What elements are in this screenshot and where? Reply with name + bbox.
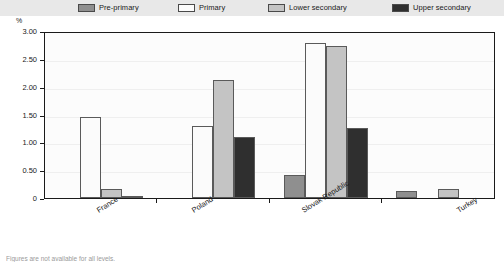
bar-poland-lower-secondary[interactable] xyxy=(213,80,234,198)
gridline xyxy=(45,89,494,90)
y-axis-tick-label: 1.00 xyxy=(22,138,37,147)
legend-swatch-icon xyxy=(268,4,285,12)
bar-poland-primary[interactable] xyxy=(192,126,213,198)
x-axis-group-tick xyxy=(381,199,382,203)
gridline xyxy=(45,144,494,145)
y-axis-tick-label: 3.00 xyxy=(22,27,37,36)
legend-label: Lower secondary xyxy=(289,4,347,12)
y-axis-tick-label: 0.50 xyxy=(22,166,37,175)
bar-france-primary[interactable] xyxy=(80,117,101,198)
legend-swatch-icon xyxy=(392,4,409,12)
y-axis: 00.501.001.502.002.503.00 xyxy=(0,32,44,199)
legend-label: Pre-primary xyxy=(99,4,139,12)
gridline xyxy=(45,172,494,173)
y-axis-tick-label: 2.50 xyxy=(22,55,37,64)
legend-swatch-icon xyxy=(78,4,95,12)
y-axis-tick-label: 1.50 xyxy=(22,111,37,120)
chart-legend: Pre-primaryPrimaryLower secondaryUpper s… xyxy=(0,0,504,16)
bar-slovak-republic-upper-secondary[interactable] xyxy=(347,128,368,198)
chart-footnote: Figures are not available for all levels… xyxy=(6,255,115,262)
bar-france-upper-secondary[interactable] xyxy=(122,196,143,198)
y-axis-unit-label: % xyxy=(16,17,22,24)
legend-item-lower-secondary[interactable]: Lower secondary xyxy=(268,4,347,12)
gridline xyxy=(45,117,494,118)
bar-turkey-lower-secondary[interactable] xyxy=(438,189,459,198)
bar-slovak-republic-primary[interactable] xyxy=(305,43,326,198)
legend-swatch-icon xyxy=(178,4,195,12)
bar-slovak-republic-lower-secondary[interactable] xyxy=(326,46,347,198)
y-axis-tick-mark xyxy=(40,199,44,200)
legend-item-pre-primary[interactable]: Pre-primary xyxy=(78,4,139,12)
legend-item-primary[interactable]: Primary xyxy=(178,4,225,12)
legend-label: Primary xyxy=(199,4,225,12)
plot-area xyxy=(44,32,495,199)
y-axis-tick-label: 0 xyxy=(33,194,37,203)
gridline xyxy=(45,61,494,62)
bar-poland-upper-secondary[interactable] xyxy=(234,137,255,198)
bar-slovak-republic-pre-primary[interactable] xyxy=(284,175,305,198)
x-axis-group-tick xyxy=(269,199,270,203)
bar-turkey-pre-primary[interactable] xyxy=(396,191,417,198)
legend-label: Upper secondary xyxy=(413,4,471,12)
x-axis-group-tick xyxy=(156,199,157,203)
plot-wrapper xyxy=(44,32,495,199)
legend-item-upper-secondary[interactable]: Upper secondary xyxy=(392,4,471,12)
y-axis-tick-label: 2.00 xyxy=(22,83,37,92)
